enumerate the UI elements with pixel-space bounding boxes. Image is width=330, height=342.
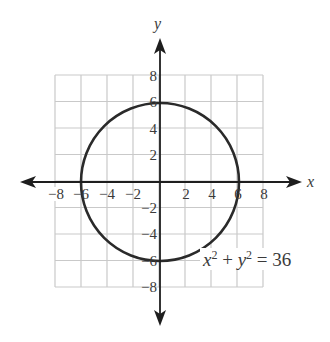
circle-graph: x y −8 −6 −4 −2 2 4 6 8 8 6 4 2 −2 −4 −6… xyxy=(0,0,330,342)
equation-y: y xyxy=(236,249,247,270)
y-tick-label: −2 xyxy=(141,200,157,216)
y-tick-label: 8 xyxy=(150,68,158,84)
x-tick-label: −4 xyxy=(99,186,115,202)
y-tick-label: 4 xyxy=(150,121,158,137)
y-tick-label: 2 xyxy=(150,147,158,163)
x-tick-label: −6 xyxy=(73,186,89,202)
x-tick-label: −8 xyxy=(48,186,64,202)
x-axis-label: x xyxy=(306,173,314,190)
y-tick-label: −8 xyxy=(141,279,157,295)
x-tick-label: 4 xyxy=(208,186,216,202)
y-tick-label: −4 xyxy=(141,226,157,242)
x-tick-label: 2 xyxy=(182,186,190,202)
equation-plus: + xyxy=(217,249,237,270)
x-tick-label: 8 xyxy=(260,186,268,202)
y-axis-label: y xyxy=(152,15,162,33)
y-tick-label: 6 xyxy=(150,94,158,110)
equation-rest: = 36 xyxy=(252,249,291,270)
x-tick-label: 6 xyxy=(234,186,242,202)
x-tick-label: −2 xyxy=(125,186,141,202)
y-tick-label: −6 xyxy=(141,253,157,269)
